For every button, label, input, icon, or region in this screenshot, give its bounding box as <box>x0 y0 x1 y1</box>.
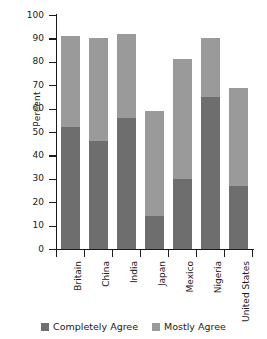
bar-segment[interactable] <box>89 38 108 141</box>
x-axis-label-britain: Britain <box>74 261 83 291</box>
y-axis-tick-label: 70 <box>16 81 44 90</box>
y-axis-tick <box>49 38 56 39</box>
bar-segment[interactable] <box>201 97 220 249</box>
bar-stack[interactable] <box>201 15 220 249</box>
x-axis-tick <box>196 250 197 257</box>
y-axis-tick <box>49 202 56 203</box>
bar-segment[interactable] <box>173 179 192 249</box>
y-axis-tick-label: 30 <box>16 174 44 183</box>
bar-segment[interactable] <box>201 38 220 97</box>
legend-swatch-mostly-agree <box>152 323 160 331</box>
bar-segment[interactable] <box>145 216 164 249</box>
x-axis-tick <box>112 250 113 257</box>
y-axis-tick <box>49 85 56 86</box>
y-axis-tick-label: 100 <box>16 11 44 20</box>
y-axis-tick-label: 60 <box>16 104 44 113</box>
legend-swatch-completely-agree <box>41 323 49 331</box>
bar-segment[interactable] <box>229 186 248 249</box>
bar-segment[interactable] <box>61 127 80 249</box>
y-axis-tick <box>49 132 56 133</box>
x-axis-tick <box>84 250 85 257</box>
y-axis-tick <box>49 155 56 156</box>
y-axis-tick <box>49 179 56 180</box>
bar-segment[interactable] <box>145 111 164 216</box>
bar-stack[interactable] <box>61 15 80 249</box>
x-axis-tick <box>224 250 225 257</box>
y-axis-tick <box>49 226 56 227</box>
bar-segment[interactable] <box>229 88 248 186</box>
stacked-bar-chart: Percent 0102030405060708090100 BritainCh… <box>0 0 267 339</box>
legend-item[interactable]: Mostly Agree <box>152 322 226 332</box>
x-axis-label-china: China <box>102 261 111 287</box>
bar-segment[interactable] <box>61 36 80 127</box>
x-axis-label-nigeria: Nigeria <box>214 261 223 293</box>
plot-area <box>56 15 252 249</box>
y-axis-tick-label: 10 <box>16 221 44 230</box>
y-axis-tick-label: 20 <box>16 198 44 207</box>
legend-label: Completely Agree <box>53 322 138 332</box>
legend-item[interactable]: Completely Agree <box>41 322 138 332</box>
bar-stack[interactable] <box>145 15 164 249</box>
bar-stack[interactable] <box>89 15 108 249</box>
x-axis-label-mexico: Mexico <box>186 261 195 292</box>
x-axis-label-india: India <box>130 261 139 283</box>
bar-segment[interactable] <box>89 141 108 249</box>
bar-stack[interactable] <box>173 15 192 249</box>
bar-segment[interactable] <box>173 59 192 178</box>
x-axis-label-united-states: United States <box>242 261 251 322</box>
y-axis-tick-label: 90 <box>16 34 44 43</box>
bar-stack[interactable] <box>117 15 136 249</box>
legend-label: Mostly Agree <box>164 322 226 332</box>
bar-stack[interactable] <box>229 15 248 249</box>
x-axis-label-japan: Japan <box>158 261 167 286</box>
y-axis-tick <box>49 109 56 110</box>
y-axis-tick-label: 50 <box>16 128 44 137</box>
y-axis-tick-label: 40 <box>16 151 44 160</box>
y-axis-tick <box>49 15 56 16</box>
x-axis-tick <box>252 250 253 257</box>
y-axis-tick-label: 80 <box>16 57 44 66</box>
bar-segment[interactable] <box>117 34 136 118</box>
x-axis-tick <box>56 250 57 257</box>
chart-legend: Completely AgreeMostly Agree <box>0 322 267 332</box>
y-axis-tick-label: 0 <box>16 245 44 254</box>
y-axis-tick <box>49 62 56 63</box>
x-axis-tick <box>140 250 141 257</box>
x-axis-tick <box>168 250 169 257</box>
bar-segment[interactable] <box>117 118 136 249</box>
y-axis-tick <box>49 249 56 250</box>
